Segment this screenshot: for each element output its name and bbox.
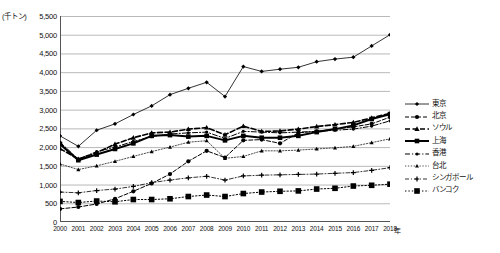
legend-item[interactable]: 上海 <box>404 133 498 145</box>
chart-container: (千トン) 5,5005,0004,5004,0003,5003,0002,50… <box>0 0 500 253</box>
data-point <box>351 170 356 175</box>
series-シンガポール <box>60 165 390 195</box>
data-point <box>351 123 356 128</box>
data-point <box>259 173 264 178</box>
data-point <box>388 165 390 170</box>
data-point <box>415 164 419 168</box>
data-point <box>94 188 99 193</box>
series-ソウル <box>60 111 390 161</box>
data-point <box>113 122 117 126</box>
data-point <box>370 44 374 48</box>
data-point <box>223 137 226 140</box>
data-point <box>297 131 300 134</box>
data-point <box>168 93 172 97</box>
x-axis-tick: 2017 <box>365 225 379 232</box>
x-axis-tick: 2006 <box>163 225 177 232</box>
x-axis-tick: 2011 <box>255 225 268 232</box>
x-axis-tick: 2000 <box>53 225 67 232</box>
data-point <box>415 139 420 144</box>
data-point <box>388 137 390 141</box>
data-point <box>314 186 320 192</box>
data-point <box>369 182 375 188</box>
data-point <box>150 104 154 108</box>
legend-label: 上海 <box>430 134 445 145</box>
data-point <box>167 196 173 202</box>
legend-item[interactable]: シンガポール <box>404 170 498 182</box>
data-point <box>259 189 265 195</box>
series-line <box>60 139 390 170</box>
legend-item[interactable]: ソウル <box>404 121 498 133</box>
data-point <box>314 172 319 177</box>
x-axis-title: 年 <box>394 225 401 235</box>
data-point <box>333 129 336 132</box>
y-axis-tick: 2,500 <box>39 124 57 133</box>
data-point <box>315 130 318 133</box>
data-point <box>296 65 300 69</box>
data-point <box>351 183 357 189</box>
legend-item[interactable]: バンコク <box>404 183 498 195</box>
data-point <box>113 145 116 148</box>
y-axis-tick: 4,500 <box>39 49 57 58</box>
legend-item[interactable]: 台北 <box>404 158 498 170</box>
data-point <box>415 114 419 118</box>
legend-symbol-icon <box>404 158 430 170</box>
data-point <box>315 60 319 64</box>
y-axis-tick: 5,500 <box>39 12 57 21</box>
data-point <box>149 197 155 203</box>
y-axis-tick: 4,000 <box>39 68 57 77</box>
data-point <box>241 154 245 158</box>
data-point <box>296 172 301 177</box>
y-axis-tick: 5,000 <box>39 30 57 39</box>
data-point <box>187 131 190 134</box>
legend-symbol-icon <box>404 146 430 158</box>
data-point <box>205 149 209 153</box>
data-point <box>278 172 283 177</box>
chart-legend: 東京北京ソウル上海香港台北シンガポールバンコク <box>404 96 498 195</box>
data-point <box>76 205 80 209</box>
plot-area <box>60 16 390 222</box>
legend-item[interactable]: 香港 <box>404 146 498 158</box>
data-point <box>168 178 173 183</box>
data-point <box>150 135 153 138</box>
data-point <box>95 150 98 153</box>
y-axis: 5,5005,0004,5004,0003,5003,0002,5002,000… <box>0 16 57 222</box>
data-point <box>259 135 264 140</box>
data-point <box>414 188 420 194</box>
data-point <box>60 207 62 211</box>
data-point <box>131 112 135 116</box>
x-axis-tick: 2002 <box>90 225 104 232</box>
legend-label: ソウル <box>430 121 452 132</box>
data-point <box>370 125 373 128</box>
data-point <box>223 178 228 183</box>
legend-label: 東京 <box>430 97 445 108</box>
legend-item[interactable]: 東京 <box>404 96 498 108</box>
x-axis-tick: 2005 <box>145 225 159 232</box>
legend-item[interactable]: 北京 <box>404 108 498 120</box>
data-point <box>131 189 135 193</box>
data-point <box>131 197 137 203</box>
data-point <box>60 190 62 195</box>
data-point <box>388 112 390 117</box>
x-axis-tick: 2004 <box>126 225 140 232</box>
x-axis: 2000200120022003200420052006200720082009… <box>60 225 390 239</box>
y-axis-tick: 3,000 <box>39 105 57 114</box>
data-point <box>387 181 390 187</box>
data-point <box>278 149 282 153</box>
data-point <box>76 190 81 195</box>
x-axis-tick: 2013 <box>291 225 305 232</box>
series-line <box>60 184 390 202</box>
data-point <box>278 131 281 134</box>
data-point <box>241 123 246 128</box>
data-point <box>242 130 245 133</box>
x-axis-tick: 2001 <box>71 225 85 232</box>
data-point <box>332 185 338 191</box>
y-axis-tick: 1,500 <box>39 161 57 170</box>
data-point <box>132 140 135 143</box>
data-point <box>415 152 418 155</box>
data-point <box>94 198 100 204</box>
data-point <box>204 174 209 179</box>
data-point <box>113 187 118 192</box>
data-point <box>222 194 228 200</box>
y-axis-tick: 2,000 <box>39 143 57 152</box>
legend-label: 北京 <box>430 109 445 120</box>
